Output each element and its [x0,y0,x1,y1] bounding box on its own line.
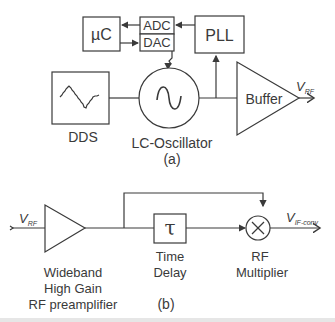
block-diagram: µC ADC DAC PLL DDS [0,0,335,322]
tau-symbol: τ [164,216,175,240]
preamp-label-3: RF preamplifier [29,297,119,312]
caption-a: (a) [163,151,180,167]
preamp-label-2: High Gain [44,281,102,296]
preamplifier: Wideband High Gain RF preamplifier [29,205,119,312]
microcontroller-label: µC [91,26,112,43]
dac-label: DAC [143,35,170,50]
vrf-output-label: VRF [296,79,315,95]
rf-multiplier: RF Multiplier [236,216,289,280]
diagram-b: VRF Wideband High Gain RF preamplifier τ… [10,193,320,312]
delay-label-1: Time [156,249,184,264]
bypass-path-arrow [124,193,263,228]
dds-label: DDS [68,129,98,145]
vif-output-label: VIF-conv [286,210,319,226]
delay-label-2: Delay [153,265,187,280]
microcontroller-block: µC [83,17,120,51]
mult-label-2: Multiplier [236,265,289,280]
caption-b: (b) [157,296,174,312]
adc-dac-block: ADC DAC [140,17,174,51]
tuning-line [168,51,172,67]
pll-block: PLL [195,16,244,53]
oscillator-label: LC-Oscillator [132,135,213,151]
diagram-a: µC ADC DAC PLL DDS [52,16,315,167]
pll-label: PLL [205,27,234,44]
preamp-label-1: Wideband [44,265,103,280]
adc-label: ADC [143,18,170,33]
buffer-amplifier: Buffer [237,62,299,135]
vrf-input-label: VRF [19,211,38,227]
buffer-label: Buffer [245,91,282,107]
mult-label-1: RF [251,249,268,264]
cut-off-caption-strip [0,318,335,322]
dds-block: DDS [52,72,109,145]
lc-oscillator: LC-Oscillator [132,68,213,151]
time-delay-block: τ Time Delay [153,214,187,280]
